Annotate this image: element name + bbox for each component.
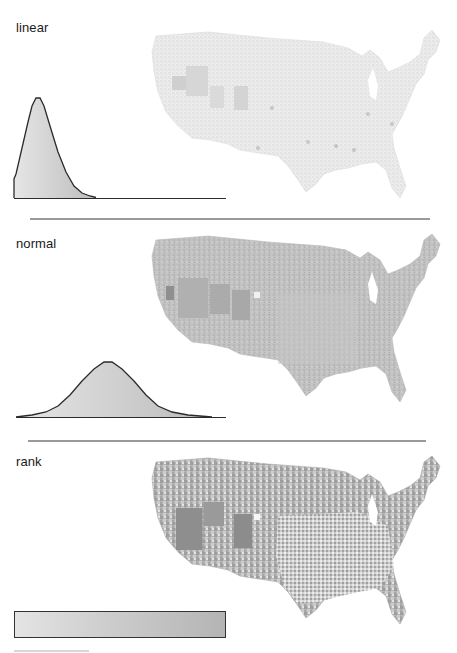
panel-linear: linear — [0, 0, 457, 215]
distribution-curve-normal — [12, 357, 228, 422]
panel-label-normal: normal — [16, 236, 56, 251]
panel-label-rank: rank — [16, 454, 42, 469]
panel-label-linear: linear — [16, 20, 48, 35]
uniform-distribution-bar-rank — [14, 611, 226, 638]
panel-normal: normal — [0, 220, 457, 440]
distribution-curve-linear — [12, 94, 228, 204]
footer-strip — [14, 650, 89, 652]
